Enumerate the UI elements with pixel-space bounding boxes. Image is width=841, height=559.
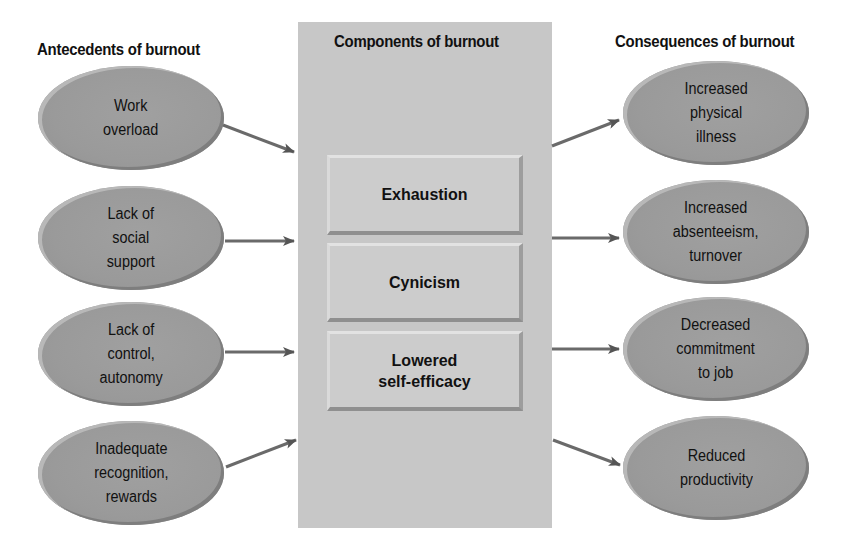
antecedent-arrows [223,125,296,467]
arrow-icon [552,120,619,146]
arrow-icon [223,125,294,152]
arrows-layer [0,0,841,559]
consequence-arrows [552,120,620,465]
arrow-icon [226,440,296,467]
arrow-icon [553,440,620,465]
